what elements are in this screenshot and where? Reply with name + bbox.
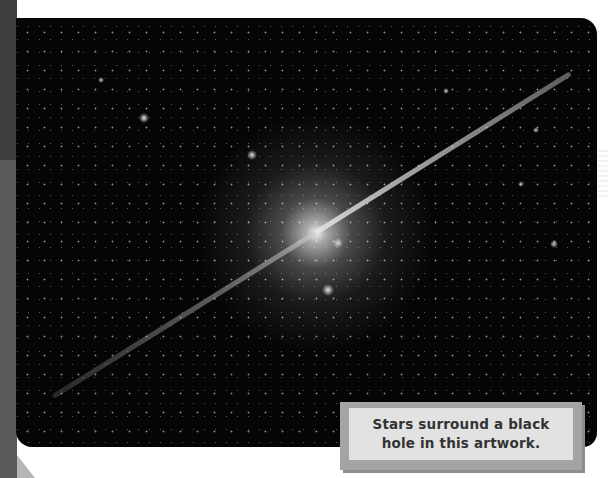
starfield xyxy=(16,18,597,447)
galaxy-black-hole-image xyxy=(16,18,597,447)
caption-line-1: Stars surround a black xyxy=(372,415,549,434)
caption-panel: Stars surround a black hole in this artw… xyxy=(349,408,573,460)
caption-line-2: hole in this artwork. xyxy=(372,434,549,453)
page-edge-band-dark xyxy=(0,0,17,160)
decorative-wedge xyxy=(17,455,35,478)
page-texture xyxy=(598,150,608,200)
caption-box: Stars surround a black hole in this artw… xyxy=(340,402,582,470)
caption-text: Stars surround a black hole in this artw… xyxy=(372,415,549,453)
